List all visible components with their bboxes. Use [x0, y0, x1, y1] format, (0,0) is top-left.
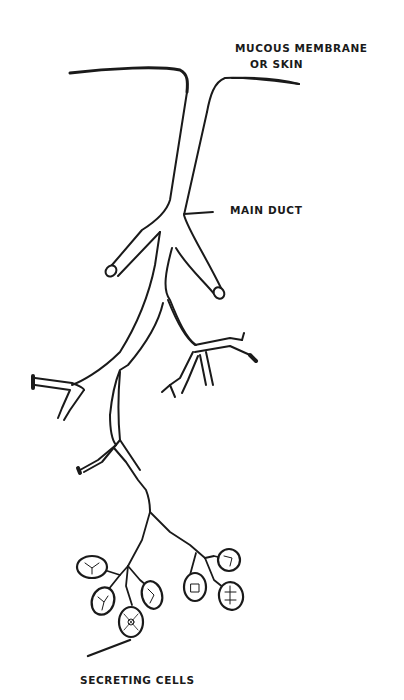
label-mucous-membrane: MUCOUS MEMBRANE [235, 42, 368, 54]
main-duct [112, 92, 222, 290]
main-duct-left-wall [112, 92, 187, 265]
label-secreting-cells: SECRETING CELLS [80, 674, 195, 686]
acinus [119, 607, 143, 637]
main-duct-right-wall [184, 112, 222, 290]
gland-diagram [0, 0, 404, 700]
pointer-main-duct [184, 212, 213, 214]
branch-left-system [33, 372, 150, 512]
label-main-duct: MAIN DUCT [230, 204, 302, 216]
acinus [218, 549, 240, 571]
branch-upper-right [176, 248, 227, 301]
surface-left [70, 68, 187, 92]
acinus [184, 573, 206, 601]
secreting-cells [77, 549, 245, 637]
label-or-skin: OR SKIN [250, 58, 303, 70]
surface-right [207, 78, 299, 112]
acinus [139, 579, 166, 611]
acinus [77, 556, 107, 578]
acinus [88, 584, 118, 618]
branch-upper-left [103, 232, 160, 279]
